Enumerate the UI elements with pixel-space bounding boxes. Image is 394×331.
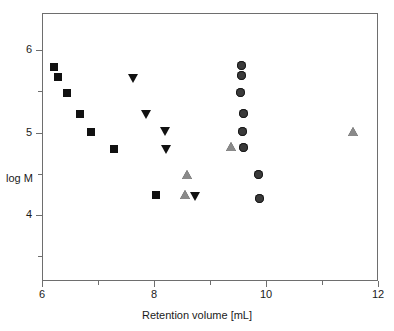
- data-point-circle: [239, 143, 248, 152]
- x-tick: [378, 281, 379, 287]
- y-tick: [36, 50, 43, 51]
- chart-figure: log M Retention volume [mL] 654681012: [0, 0, 394, 331]
- y-tick-label: 5: [6, 127, 32, 138]
- y-tick-label: 4: [6, 209, 32, 220]
- data-point-square: [110, 145, 118, 153]
- data-point-circle: [254, 170, 263, 179]
- x-tick-label: 8: [139, 289, 169, 300]
- x-tick-label: 6: [27, 289, 57, 300]
- y-tick: [38, 91, 43, 92]
- data-point-triangle-up: [180, 190, 190, 199]
- x-tick: [210, 281, 211, 285]
- x-tick-label: 10: [251, 289, 281, 300]
- x-tick: [266, 281, 267, 287]
- y-tick: [36, 215, 43, 216]
- x-axis-title: Retention volume [mL]: [0, 309, 394, 321]
- x-tick-label: 12: [363, 289, 393, 300]
- data-point-triangle-up: [226, 142, 236, 151]
- data-point-triangle-down: [160, 127, 170, 136]
- y-axis-title: log M: [6, 172, 33, 184]
- data-point-triangle-up: [348, 127, 358, 136]
- data-point-square: [54, 73, 62, 81]
- y-tick: [38, 256, 43, 257]
- data-point-circle: [236, 88, 245, 97]
- data-point-square: [50, 63, 58, 71]
- data-point-square: [152, 191, 160, 199]
- y-tick: [38, 174, 43, 175]
- data-point-square: [87, 128, 95, 136]
- data-point-square: [63, 89, 71, 97]
- y-tick-label: 6: [6, 44, 32, 55]
- x-tick: [154, 281, 155, 287]
- x-tick: [42, 281, 43, 287]
- data-point-triangle-down: [161, 145, 171, 154]
- data-point-square: [76, 110, 84, 118]
- y-tick: [36, 133, 43, 134]
- data-point-triangle-down: [141, 110, 151, 119]
- plot-area: [42, 13, 378, 281]
- x-tick: [322, 281, 323, 285]
- data-point-circle: [255, 194, 264, 203]
- data-point-triangle-up: [182, 170, 192, 179]
- data-point-triangle-down: [190, 192, 200, 201]
- data-point-triangle-down: [128, 74, 138, 83]
- x-tick: [98, 281, 99, 285]
